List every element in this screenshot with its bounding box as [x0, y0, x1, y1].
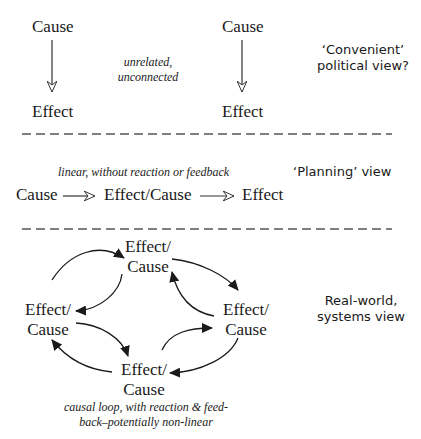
political-view-line2: political view?: [308, 58, 418, 74]
loop-node-right-line1: Effect/: [216, 300, 276, 320]
node-right-cause: Cause: [222, 17, 264, 37]
node-left-effect: Effect: [32, 102, 73, 122]
loop-node-top: Effect/ Cause: [118, 237, 178, 277]
loop-arrow-left-to-bottom: [76, 323, 128, 356]
loop-arrow-bottom-to-right: [162, 328, 212, 350]
loop-arrow-right-to-top: [172, 272, 214, 316]
linear-note: linear, without reaction or feedback: [58, 165, 229, 180]
chain-node-effect: Effect: [242, 185, 283, 205]
planning-view-label: ‘Planning’ view: [293, 164, 391, 179]
causal-loop-note-line2: back–potentially non-linear: [46, 415, 246, 430]
loop-node-right-line2: Cause: [216, 320, 276, 340]
loop-arrow-top-to-left: [76, 274, 122, 311]
chain-node-cause: Cause: [16, 185, 58, 205]
loop-node-right: Effect/ Cause: [216, 300, 276, 340]
unrelated-note: unrelated, unconnected: [108, 55, 188, 85]
loop-node-left-line1: Effect/: [18, 300, 78, 320]
loop-arrow-left-to-top: [52, 250, 124, 280]
loop-arrow-top-to-right: [172, 259, 238, 290]
systems-view-line1: Real-world,: [306, 293, 416, 309]
unrelated-note-line2: unconnected: [108, 70, 188, 85]
causal-loop-note-line1: causal loop, with reaction & feed-: [46, 400, 246, 415]
systems-view-label: Real-world, systems view: [306, 293, 416, 325]
loop-node-bottom-line2: Cause: [114, 380, 174, 400]
unrelated-note-line1: unrelated,: [108, 55, 188, 70]
causal-loop-note: causal loop, with reaction & feed- back–…: [46, 400, 246, 430]
loop-arrow-right-to-bottom: [170, 338, 238, 373]
loop-node-top-line2: Cause: [118, 257, 178, 277]
political-view-label: ‘Convenient’ political view?: [308, 42, 418, 74]
loop-node-left-line2: Cause: [18, 320, 78, 340]
node-left-cause: Cause: [32, 17, 74, 37]
systems-view-line2: systems view: [306, 309, 416, 325]
loop-node-top-line1: Effect/: [118, 237, 178, 257]
loop-arrow-bottom-to-left: [52, 340, 112, 372]
node-right-effect: Effect: [222, 102, 263, 122]
political-view-line1: ‘Convenient’: [308, 42, 418, 58]
loop-node-bottom: Effect/ Cause: [114, 360, 174, 400]
loop-node-left: Effect/ Cause: [18, 300, 78, 340]
loop-node-bottom-line1: Effect/: [114, 360, 174, 380]
chain-node-effect-cause: Effect/Cause: [104, 185, 191, 205]
